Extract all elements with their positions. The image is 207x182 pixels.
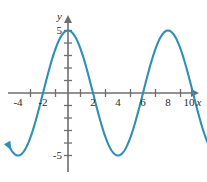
curve-left-arrowhead — [4, 141, 11, 151]
x-tick-label--2: -2 — [38, 96, 47, 108]
y-tick-label--5: -5 — [53, 149, 63, 161]
graph-svg: -4 -2 2 4 6 8 10 5 -5 y x — [0, 0, 207, 182]
x-tick-label-6: 6 — [140, 96, 146, 108]
x-axis-label: x — [196, 96, 202, 108]
y-axis-arrowhead — [64, 15, 72, 23]
x-tick-label-8: 8 — [165, 96, 171, 108]
y-tick-label-5: 5 — [57, 24, 63, 36]
y-axis-label: y — [56, 10, 62, 22]
x-tick-label-4: 4 — [115, 96, 121, 108]
x-tick-label-10: 10 — [184, 96, 196, 108]
x-tick-label--4: -4 — [13, 96, 23, 108]
x-tick-label-2: 2 — [90, 96, 96, 108]
cosine-graph-figure: -4 -2 2 4 6 8 10 5 -5 y x — [0, 0, 207, 182]
